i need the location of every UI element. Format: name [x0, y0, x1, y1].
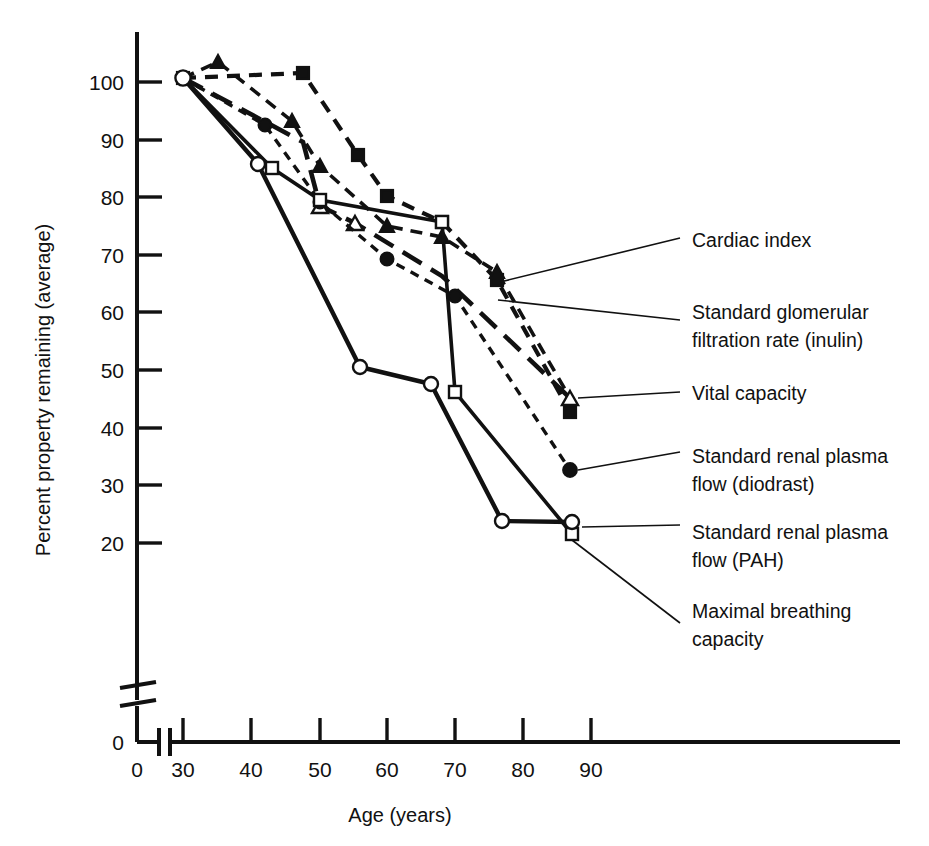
x-tick-label-0: 0 [131, 758, 143, 781]
marker-maximal-breathing-capacity [251, 157, 265, 171]
series-maximal-breathing-capacity [175, 70, 579, 529]
leader-line-renal-plasma-flow-pah [582, 525, 680, 527]
y-tick-label-100: 100 [89, 71, 124, 94]
leader-line-renal-plasma-flow-diodrast [578, 452, 680, 470]
marker-series-origin [175, 70, 190, 85]
x-tick-label-80: 80 [511, 758, 534, 781]
callout-renal-plasma-flow-diodrast-line2: flow (diodrast) [692, 473, 814, 495]
marker-maximal-breathing-capacity [565, 515, 579, 529]
callout-renal-plasma-flow-pah-line1: Standard renal plasma [692, 521, 888, 543]
marker-renal-plasma-flow-diodrast [259, 119, 272, 132]
x-tick-label-50: 50 [308, 758, 331, 781]
marker-renal-plasma-flow-diodrast [563, 463, 577, 477]
marker-maximal-breathing-capacity [495, 514, 509, 528]
leader-line-cardiac-index [500, 238, 680, 282]
figure-container: 100 90 80 70 60 50 40 30 20 0 0 30 40 50… [0, 0, 929, 846]
marker-cardiac-index [352, 149, 364, 161]
callout-glomerular-filtration-rate-line1: Standard glomerular [692, 301, 869, 323]
x-tick-label-70: 70 [443, 758, 466, 781]
callout-labels: Cardiac index Standard glomerular filtra… [692, 229, 888, 650]
leader-line-glomerular-filtration-rate [498, 300, 680, 320]
marker-maximal-breathing-capacity [353, 360, 367, 374]
x-tick-label-60: 60 [375, 758, 398, 781]
callout-maximal-breathing-capacity-line1: Maximal breathing [692, 600, 851, 622]
y-tick-label-40: 40 [101, 417, 124, 440]
line-chart: 100 90 80 70 60 50 40 30 20 0 0 30 40 50… [0, 0, 929, 846]
y-tick-label-20: 20 [101, 532, 124, 555]
x-tick-label-30: 30 [171, 758, 194, 781]
y-tick-label-90: 90 [101, 129, 124, 152]
y-tick-label-80: 80 [101, 186, 124, 209]
x-tick-label-40: 40 [239, 758, 262, 781]
y-tick-label-70: 70 [101, 244, 124, 267]
callout-leader-lines [498, 238, 680, 623]
marker-renal-plasma-flow-pah [314, 194, 326, 206]
x-axis-title: Age (years) [348, 804, 451, 826]
marker-renal-plasma-flow-pah [449, 386, 461, 398]
marker-renal-plasma-flow-diodrast [449, 290, 462, 303]
leader-line-maximal-breathing-capacity [572, 540, 680, 623]
series-cardiac-index [177, 67, 576, 418]
y-tick-label-50: 50 [101, 359, 124, 382]
callout-maximal-breathing-capacity-line2: capacity [692, 628, 764, 650]
marker-cardiac-index [381, 190, 393, 202]
y-tick-label-0: 0 [112, 731, 124, 754]
marker-renal-plasma-flow-pah [436, 216, 448, 228]
y-tick-label-30: 30 [101, 474, 124, 497]
y-axis-title: Percent property remaining (average) [32, 224, 54, 556]
marker-maximal-breathing-capacity [424, 377, 438, 391]
marker-cardiac-index [564, 406, 576, 418]
x-tick-label-90: 90 [579, 758, 602, 781]
series-vital-capacity [183, 78, 578, 405]
callout-vital-capacity: Vital capacity [692, 382, 807, 404]
marker-renal-plasma-flow-pah [266, 162, 278, 174]
series-glomerular-filtration-rate [183, 55, 570, 398]
marker-glomerular-filtration-rate [211, 55, 225, 68]
callout-renal-plasma-flow-pah-line2: flow (PAH) [692, 549, 784, 571]
x-axis: 0 30 40 50 60 70 80 90 [131, 718, 900, 781]
y-axis: 100 90 80 70 60 50 40 30 20 0 [89, 32, 162, 754]
callout-cardiac-index: Cardiac index [692, 229, 811, 251]
y-tick-label-60: 60 [101, 301, 124, 324]
marker-renal-plasma-flow-diodrast [381, 253, 394, 266]
marker-glomerular-filtration-rate [313, 159, 327, 172]
callout-renal-plasma-flow-diodrast-line1: Standard renal plasma [692, 445, 888, 467]
leader-line-vital-capacity [578, 392, 680, 398]
callout-glomerular-filtration-rate-line2: filtration rate (inulin) [692, 329, 863, 351]
y-axis-break-mark-lower [120, 700, 156, 706]
marker-cardiac-index [297, 67, 309, 79]
